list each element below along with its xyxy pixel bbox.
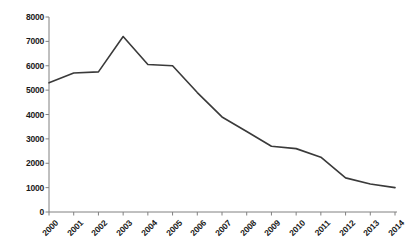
y-axis-ticks [46,17,50,212]
y-axis-tick-label: 6000 [0,61,44,71]
x-axis-ticks [49,212,395,216]
y-axis-tick-label: 0 [0,207,44,217]
data-series-line [49,37,395,188]
y-axis-tick-label: 7000 [0,36,44,46]
y-axis-tick-label: 4000 [0,110,44,120]
line-chart: 010002000300040005000600070008000 200020… [0,0,409,250]
y-axis-tick-label: 1000 [0,183,44,193]
chart-plot-area [0,0,409,250]
y-axis-tick-label: 2000 [0,158,44,168]
axis-group [49,17,397,212]
y-axis-tick-label: 8000 [0,12,44,22]
y-axis-tick-label: 3000 [0,134,44,144]
y-axis-tick-label: 5000 [0,85,44,95]
